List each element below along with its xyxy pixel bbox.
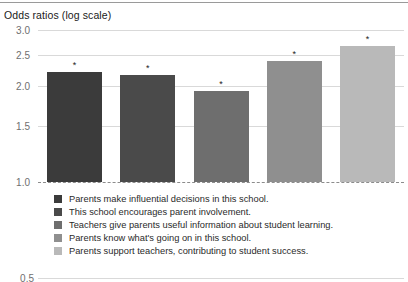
gridline-3-0 [38, 30, 404, 31]
significance-marker-1: * [73, 61, 77, 70]
bar-4 [267, 61, 322, 182]
significance-marker-2: * [146, 64, 150, 73]
legend-item-2: This school encourages parent involvemen… [54, 205, 333, 218]
bar-5 [340, 46, 395, 182]
legend-item-4: Parents know what's going on in this sch… [54, 232, 333, 245]
chart-legend: Parents make influential decisions in th… [54, 192, 333, 258]
significance-marker-3: * [219, 80, 223, 89]
plot-area: 3.02.52.01.51.0***** [38, 30, 404, 182]
legend-label-3: Teachers give parents useful information… [69, 220, 333, 230]
legend-swatch-icon-4 [54, 234, 62, 242]
significance-marker-5: * [366, 35, 370, 44]
figure-top-rule [0, 2, 408, 3]
legend-swatch-icon-2 [54, 208, 62, 216]
significance-marker-4: * [292, 50, 296, 59]
bar-2 [120, 75, 175, 182]
reference-line-1-0 [38, 182, 404, 183]
legend-swatch-icon-5 [54, 247, 62, 255]
legend-label-4: Parents know what's going on in this sch… [69, 233, 251, 243]
legend-label-1: Parents make influential decisions in th… [69, 194, 268, 204]
legend-swatch-icon-3 [54, 221, 62, 229]
y-axis-tick-2-5: 2.5 [0, 50, 30, 61]
legend-item-3: Teachers give parents useful information… [54, 218, 333, 231]
bar-3 [194, 91, 249, 182]
y-axis-tick-1-5: 1.5 [0, 120, 30, 131]
legend-label-5: Parents support teachers, contributing t… [69, 246, 308, 256]
y-axis-tick-1-0: 1.0 [0, 177, 30, 188]
legend-swatch-icon-1 [54, 195, 62, 203]
legend-label-2: This school encourages parent involvemen… [69, 207, 251, 217]
legend-item-1: Parents make influential decisions in th… [54, 192, 333, 205]
y-axis-tick-2-0: 2.0 [0, 81, 30, 92]
legend-item-5: Parents support teachers, contributing t… [54, 245, 333, 258]
chart-title: Odds ratios (log scale) [4, 9, 111, 21]
y-axis-tick-0-5: 0.5 [0, 272, 34, 282]
gridline-0-5 [38, 278, 404, 279]
y-axis-tick-3-0: 3.0 [0, 25, 30, 36]
bar-1 [47, 72, 102, 182]
chart-figure: Odds ratios (log scale) 3.02.52.01.51.0*… [0, 0, 408, 282]
